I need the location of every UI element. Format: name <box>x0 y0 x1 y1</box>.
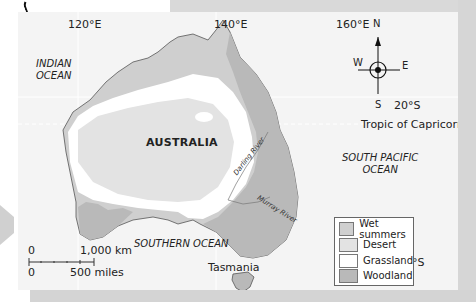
grassland-patch <box>195 112 213 122</box>
map-australia-vegetation: 120°E 140°E 160°E N W E S 20°S 40°S Trop… <box>18 12 458 290</box>
wet-summers-swatch <box>339 222 354 236</box>
background-arrow-shape <box>0 205 14 245</box>
longitude-label-160: 160°E <box>336 18 369 31</box>
southern-ocean-label: SOUTHERN OCEAN <box>134 238 229 250</box>
legend-item-woodland: Woodland <box>339 268 412 283</box>
background-panel-edge <box>458 0 476 302</box>
indian-ocean-label: INDIAN OCEAN <box>36 58 72 82</box>
desert-swatch <box>339 238 358 252</box>
latitude-label-20: 20°S <box>394 99 420 112</box>
longitude-label-120: 120°E <box>68 18 101 31</box>
background-panel-bottom <box>30 290 476 302</box>
scale-mi-zero: 0 <box>28 266 35 279</box>
compass-e-label: E <box>402 60 408 71</box>
woodland-swatch <box>339 269 358 283</box>
grassland-swatch <box>339 254 358 268</box>
scale-mi-label: 500 miles <box>70 266 124 279</box>
tasmania-island <box>232 272 254 290</box>
compass-w-label: W <box>353 57 363 68</box>
tasmania-label: Tasmania <box>208 261 260 274</box>
scale-km-zero: 0 <box>28 244 35 257</box>
longitude-label-140: 140°E <box>214 18 247 31</box>
legend-item-wet-summers: Wet summers <box>339 221 413 236</box>
scale-km-label: 1,000 km <box>80 244 132 257</box>
legend: Wet summers Desert Grassland Woodland <box>334 217 414 286</box>
compass-s-label: S <box>375 99 381 110</box>
legend-item-desert: Desert <box>339 237 396 252</box>
australia-label: AUSTRALIA <box>146 136 218 149</box>
scale-bar-line <box>28 258 98 266</box>
tropic-of-capricorn-label: Tropic of Capricorn <box>361 118 458 131</box>
legend-item-grassland: Grassland <box>339 253 413 268</box>
compass-n-label: N <box>373 18 380 29</box>
south-pacific-ocean-label: SOUTH PACIFIC OCEAN <box>342 152 418 176</box>
